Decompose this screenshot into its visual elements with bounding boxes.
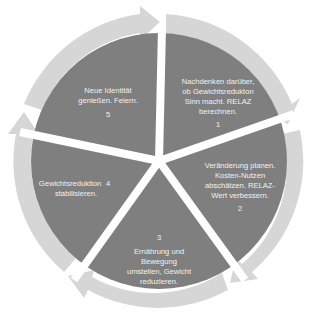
segment-3-line-2: Bewegung — [141, 257, 177, 266]
segment-3-line-1: Ernährung und — [134, 247, 184, 256]
segment-2-line-3: abschätzen. RELAZ- — [205, 181, 276, 190]
segment-1-line-1: Nachdenken darüber, — [182, 77, 255, 86]
segment-3-line-4: reduzieren. — [140, 277, 178, 286]
segment-4-number: 4 — [106, 179, 110, 188]
segment-3-line-3: umstellen, Gewicht — [127, 267, 192, 276]
segment-1-line-4: berechnen. — [199, 107, 237, 116]
segment-5-number: 5 — [106, 110, 110, 119]
segment-2-number: 2 — [238, 204, 242, 213]
segment-1-number: 1 — [216, 120, 220, 129]
weight-loss-cycle-diagram: Nachdenken darüber, ob Gewichtsredukton … — [0, 0, 313, 320]
segment-5-line-2: genießen. Feiern. — [78, 96, 138, 105]
segment-3-number: 3 — [157, 233, 161, 242]
segment-4-line-2: stabilisieren. — [55, 189, 97, 198]
segment-4-line-1: Gewichtsreduktion — [39, 179, 101, 188]
segment-1-line-3: Sinn macht. RELAZ — [185, 97, 252, 106]
segment-1-line-2: ob Gewichtsredukton — [182, 87, 253, 96]
segment-5-line-1: Neue Identität — [84, 86, 132, 95]
segment-2-line-1: Veränderung planen. — [205, 161, 276, 170]
segment-2-line-4: Wert verbessern. — [211, 191, 269, 200]
segment-2-line-2: Kosten-Nutzen — [215, 171, 265, 180]
